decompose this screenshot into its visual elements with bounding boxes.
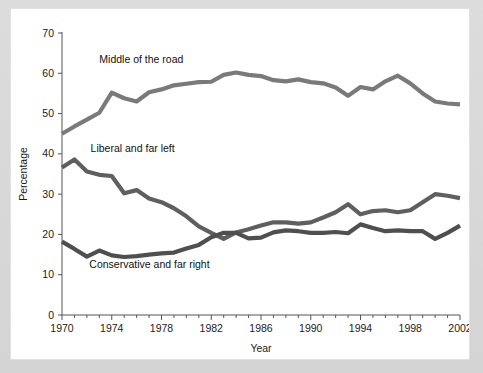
x-tick-label: 1982	[200, 322, 224, 334]
x-tick-label: 1994	[349, 322, 373, 334]
x-tick-label: 1998	[399, 322, 423, 334]
chart-panel: 0102030405060701970197419781982198619901…	[11, 9, 469, 359]
line-chart: 0102030405060701970197419781982198619901…	[11, 9, 469, 359]
x-tick-label: 1970	[50, 322, 74, 334]
y-tick-label: 70	[42, 27, 54, 39]
series-line-middle-of-the-road	[62, 72, 460, 133]
y-tick-label: 40	[42, 147, 54, 159]
series-line-conservative-and-far-right	[62, 224, 460, 257]
y-tick-label: 10	[42, 268, 54, 280]
x-axis-title: Year	[250, 342, 272, 354]
x-tick-label: 1974	[100, 322, 124, 334]
y-tick-label: 60	[42, 67, 54, 79]
y-axis-title: Percentage	[17, 147, 29, 201]
x-tick-label: 1986	[249, 322, 273, 334]
series-label-middle-of-the-road: Middle of the road	[99, 53, 183, 65]
series-label-conservative-and-far-right: Conservative and far right	[89, 258, 209, 270]
x-tick-label: 2002	[448, 322, 469, 334]
figure-background: 0102030405060701970197419781982198619901…	[0, 0, 483, 373]
series-line-liberal-and-far-left	[62, 160, 460, 239]
x-tick-label: 1990	[299, 322, 323, 334]
y-tick-label: 50	[42, 107, 54, 119]
y-tick-label: 0	[48, 309, 54, 321]
series-label-liberal-and-far-left: Liberal and far left	[91, 142, 175, 154]
y-tick-label: 20	[42, 228, 54, 240]
x-tick-label: 1978	[150, 322, 174, 334]
y-tick-label: 30	[42, 188, 54, 200]
